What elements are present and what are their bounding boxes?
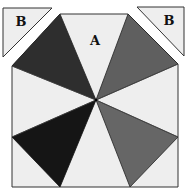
label-a: A xyxy=(89,33,101,48)
label-b-left: B xyxy=(16,14,27,29)
label-b-right: B xyxy=(164,13,175,28)
center-point xyxy=(95,99,98,102)
quilt-block-diagram: A B B xyxy=(0,0,187,194)
